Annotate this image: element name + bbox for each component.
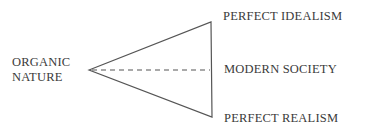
perfect-realism-label: PERFECT REALISM: [224, 111, 338, 126]
perfect-idealism-label: PERFECT IDEALISM: [223, 9, 342, 24]
modern-society-label: MODERN SOCIETY: [224, 62, 337, 77]
